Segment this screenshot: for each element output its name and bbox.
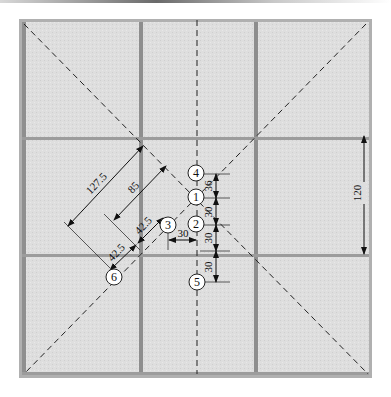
- point-label-2: 2: [193, 217, 199, 231]
- dim-label-36: 36: [202, 180, 214, 192]
- grid-line-horizontal-1: [22, 137, 369, 140]
- point-label-6: 6: [111, 270, 117, 284]
- point-6: 6: [106, 269, 122, 285]
- point-label-3: 3: [165, 218, 171, 232]
- point-label-1: 1: [193, 190, 199, 204]
- point-4: 4: [188, 165, 204, 181]
- point-label-4: 4: [193, 166, 199, 180]
- point-5: 5: [189, 274, 205, 290]
- dim-label-30-a: 30: [202, 206, 214, 218]
- dim-label-30-c: 30: [202, 261, 214, 273]
- dim-label-30-b: 30: [202, 232, 214, 244]
- dim-label-120: 120: [351, 184, 363, 201]
- point-2: 2: [188, 216, 204, 232]
- grid-line-vertical-1: [139, 22, 143, 375]
- point-1: 1: [188, 189, 204, 205]
- dim-label-horizontal-30: 30: [178, 227, 190, 239]
- point-3: 3: [160, 217, 176, 233]
- grid-line-vertical-2: [254, 22, 258, 375]
- tile-diagram: 36 30 30 30 120 30 127.5 85 42.5 42.5 4 …: [0, 0, 391, 397]
- point-label-5: 5: [194, 275, 200, 289]
- grid-line-horizontal-2: [22, 254, 369, 257]
